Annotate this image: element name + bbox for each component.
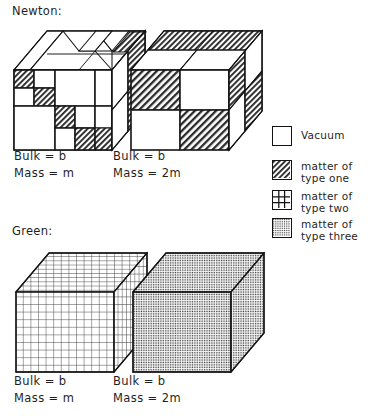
caption-mass: Mass = m bbox=[14, 390, 74, 407]
cross-grid-swatch bbox=[272, 190, 292, 210]
caption-mass: Mass = m bbox=[14, 165, 74, 182]
empty-swatch bbox=[272, 126, 292, 146]
legend-item-type-one: matter of type one bbox=[272, 160, 352, 184]
caption-bulk: Bulk = b bbox=[14, 373, 74, 390]
legend-label: matter of type one bbox=[301, 160, 352, 184]
legend-label: matter of type two bbox=[301, 190, 352, 214]
newton-left-cube bbox=[14, 31, 146, 150]
physics-matter-diagram: Newton: Green: Bulk = b Mass = m Bulk = … bbox=[0, 0, 373, 416]
caption-green-right: Bulk = b Mass = 2m bbox=[113, 373, 181, 407]
legend-line-2: type two bbox=[301, 203, 352, 215]
green-left-cube bbox=[16, 253, 147, 372]
legend-line-1: matter of bbox=[301, 219, 358, 231]
section-label-newton: Newton: bbox=[12, 4, 62, 18]
newton-left-front-face bbox=[14, 70, 112, 150]
caption-newton-right: Bulk = b Mass = 2m bbox=[113, 148, 181, 182]
legend-line-2: type three bbox=[301, 231, 358, 243]
caption-mass: Mass = 2m bbox=[113, 165, 181, 182]
caption-bulk: Bulk = b bbox=[113, 373, 181, 390]
newton-right-cube bbox=[131, 31, 262, 150]
legend-item-type-two: matter of type two bbox=[272, 190, 352, 214]
caption-bulk: Bulk = b bbox=[113, 148, 181, 165]
legend-line-1: matter of bbox=[301, 191, 352, 203]
legend-item-type-three: matter of type three bbox=[272, 218, 358, 242]
caption-newton-left: Bulk = b Mass = m bbox=[14, 148, 74, 182]
diagonal-hatch-swatch bbox=[272, 160, 292, 180]
section-label-green: Green: bbox=[12, 224, 53, 238]
legend-line-1: matter of bbox=[301, 161, 352, 173]
stipple-swatch bbox=[272, 218, 292, 238]
legend-line-2: type one bbox=[301, 173, 352, 185]
legend-item-vacuum: Vacuum bbox=[272, 126, 345, 146]
legend-line-1: Vacuum bbox=[301, 130, 345, 142]
caption-bulk: Bulk = b bbox=[14, 148, 74, 165]
newton-right-front-face bbox=[131, 70, 229, 150]
caption-green-left: Bulk = b Mass = m bbox=[14, 373, 74, 407]
legend-label: Vacuum bbox=[301, 126, 345, 142]
green-right-cube bbox=[133, 253, 264, 372]
legend-label: matter of type three bbox=[301, 218, 358, 242]
caption-mass: Mass = 2m bbox=[113, 390, 181, 407]
